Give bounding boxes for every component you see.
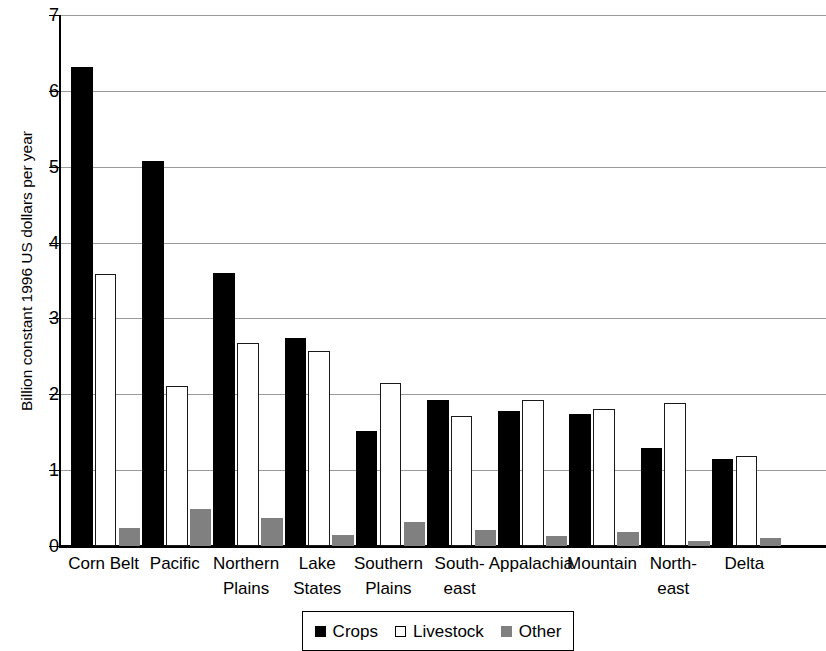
bar-other[interactable] xyxy=(688,541,710,546)
legend-entry[interactable]: Other xyxy=(501,622,562,641)
bar-group xyxy=(641,15,710,546)
bar-other[interactable] xyxy=(190,509,212,546)
bar-livestock[interactable] xyxy=(451,416,473,546)
bar-other[interactable] xyxy=(332,535,354,546)
bar-livestock[interactable] xyxy=(380,383,402,546)
legend-label: Crops xyxy=(333,622,378,641)
legend-entry[interactable]: Livestock xyxy=(395,622,484,641)
legend-entry[interactable]: Crops xyxy=(315,622,378,641)
filled-black-square-icon xyxy=(315,626,326,637)
bar-livestock[interactable] xyxy=(237,343,259,546)
bar-crops[interactable] xyxy=(641,448,663,546)
y-tick-mark-2 xyxy=(49,394,59,395)
bar-livestock[interactable] xyxy=(736,456,758,546)
x-axis-label: Delta xyxy=(693,551,796,576)
bar-group xyxy=(569,15,638,546)
bar-group xyxy=(498,15,567,546)
bar-other[interactable] xyxy=(475,530,497,546)
bar-group xyxy=(712,15,781,546)
y-tick-mark-3 xyxy=(49,318,59,319)
bar-livestock[interactable] xyxy=(593,409,615,546)
bar-group xyxy=(285,15,354,546)
bar-livestock[interactable] xyxy=(308,351,330,546)
y-tick-mark-7 xyxy=(49,15,59,16)
y-axis-ticks: 01234567 xyxy=(0,15,59,546)
y-tick-mark-0 xyxy=(49,546,59,547)
bar-other[interactable] xyxy=(617,532,639,546)
legend-label: Other xyxy=(519,622,562,641)
bar-other[interactable] xyxy=(546,536,568,546)
bar-crops[interactable] xyxy=(71,67,93,546)
y-tick-mark-4 xyxy=(49,243,59,244)
bar-livestock[interactable] xyxy=(664,403,686,546)
bar-group xyxy=(356,15,425,546)
y-tick-mark-1 xyxy=(49,470,59,471)
bar-crops[interactable] xyxy=(285,338,307,546)
chart-legend: CropsLivestockOther xyxy=(302,611,574,651)
bar-other[interactable] xyxy=(760,538,782,546)
filled-gray-square-icon xyxy=(501,626,512,637)
bar-crops[interactable] xyxy=(569,414,591,546)
bar-group xyxy=(71,15,140,546)
bar-crops[interactable] xyxy=(142,161,164,546)
legend-label: Livestock xyxy=(413,622,484,641)
y-tick-mark-6 xyxy=(49,91,59,92)
bar-other[interactable] xyxy=(404,522,426,546)
outlined-white-square-icon xyxy=(395,626,406,637)
bar-group xyxy=(427,15,496,546)
bar-livestock[interactable] xyxy=(166,386,188,546)
bar-crops[interactable] xyxy=(498,411,520,546)
bar-livestock[interactable] xyxy=(95,274,117,546)
bar-crops[interactable] xyxy=(427,400,449,546)
bar-group xyxy=(142,15,211,546)
plot-area xyxy=(59,15,826,548)
bar-crops[interactable] xyxy=(356,431,378,546)
bar-crops[interactable] xyxy=(213,273,235,546)
bars-layer xyxy=(61,15,826,546)
y-tick-mark-5 xyxy=(49,167,59,168)
bar-crops[interactable] xyxy=(712,459,734,546)
x-axis-labels: Corn BeltPacificNorthern PlainsLake Stat… xyxy=(59,551,824,607)
bar-other[interactable] xyxy=(261,518,283,546)
bar-livestock[interactable] xyxy=(522,400,544,546)
bar-other[interactable] xyxy=(119,528,141,546)
bar-group xyxy=(213,15,282,546)
